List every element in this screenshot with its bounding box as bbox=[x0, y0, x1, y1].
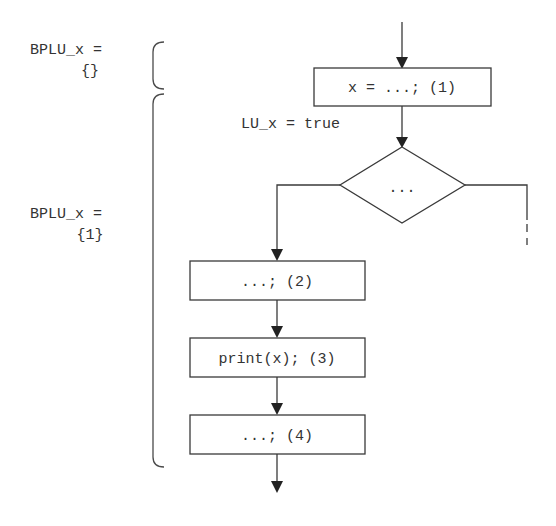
arrow-down-icon bbox=[271, 481, 283, 493]
flowchart-diagram: BPLU_x = {} BPLU_x = {1} x = ...; (1) LU… bbox=[0, 0, 556, 526]
arrow-down-icon bbox=[396, 57, 408, 69]
brace-after-icon bbox=[153, 94, 164, 467]
statement-3-label: print(x); (3) bbox=[218, 351, 335, 368]
arrow-down-icon bbox=[271, 249, 283, 261]
edge-cond-left-branch bbox=[277, 185, 340, 250]
brace-before-icon bbox=[153, 42, 164, 89]
decision-label: ... bbox=[388, 180, 415, 197]
bplu-after-label-line1: BPLU_x = bbox=[30, 206, 102, 223]
statement-4-label: ...; (4) bbox=[241, 428, 313, 445]
arrow-down-icon bbox=[271, 403, 283, 415]
bplu-before-label-line1: BPLU_x = bbox=[30, 42, 102, 59]
statement-2-label: ...; (2) bbox=[241, 274, 313, 291]
arrow-down-icon bbox=[271, 326, 283, 338]
bplu-after-label-line2: {1} bbox=[76, 227, 103, 244]
statement-1-label: x = ...; (1) bbox=[348, 80, 456, 97]
edge-cond-right-branch bbox=[465, 185, 527, 220]
bplu-before-label-line2: {} bbox=[81, 63, 99, 80]
lu-label: LU_x = true bbox=[241, 116, 340, 133]
